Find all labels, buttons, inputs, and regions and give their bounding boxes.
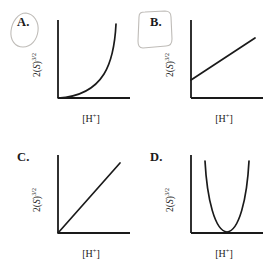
panel-letter-b: B. xyxy=(150,16,162,29)
curve-c xyxy=(58,163,120,233)
panel-a[interactable]: A. 2(S)3/2 [H+] xyxy=(0,0,133,134)
x-axis-label-d: [H+] xyxy=(185,248,263,259)
curve-d xyxy=(205,161,249,232)
panel-letter-c: C. xyxy=(17,151,30,164)
y-axis-label-text-d: 2(S)3/2 xyxy=(164,188,176,212)
y-axis-label-text-b: 2(S)3/2 xyxy=(164,53,176,77)
panel-d[interactable]: D. 2(S)3/2 [H+] xyxy=(133,135,266,269)
y-axis-label-text-a: 2(S)3/2 xyxy=(31,53,43,77)
plot-area-c xyxy=(52,153,130,245)
panel-c[interactable]: C. 2(S)3/2 [H+] xyxy=(0,135,133,269)
panel-letter-a: A. xyxy=(17,16,30,29)
plot-area-a xyxy=(52,18,130,110)
figure-four-plot-options: A. 2(S)3/2 [H+] B. 2(S)3/2 xyxy=(0,0,266,269)
curve-b xyxy=(191,38,255,80)
plot-area-b xyxy=(185,18,263,110)
panel-letter-d: D. xyxy=(150,151,163,164)
x-axis-label-b: [H+] xyxy=(185,113,263,124)
panel-b[interactable]: B. 2(S)3/2 [H+] xyxy=(133,0,266,134)
y-axis-label-text-c: 2(S)3/2 xyxy=(31,188,43,212)
plot-area-d xyxy=(185,153,263,245)
x-axis-label-c: [H+] xyxy=(52,248,130,259)
x-axis-label-a: [H+] xyxy=(52,113,130,124)
curve-a xyxy=(58,24,116,98)
